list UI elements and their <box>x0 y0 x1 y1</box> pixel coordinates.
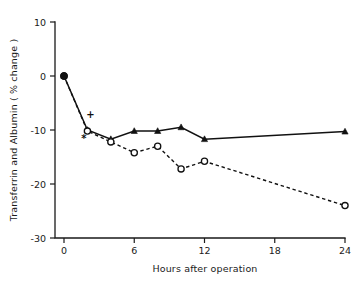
annotation-marker: + <box>86 109 94 120</box>
x-tick-label: 18 <box>269 245 281 256</box>
y-tick-label: 10 <box>34 17 46 28</box>
chart-figure: 100-10-20-30 06121824 +* Hours after ope… <box>0 0 359 282</box>
line-chart: 100-10-20-30 06121824 +* Hours after ope… <box>0 0 359 282</box>
axis-spines <box>55 22 345 238</box>
x-tick-label: 24 <box>339 245 351 256</box>
series-line-transferrin <box>64 76 345 139</box>
y-tick-label: -10 <box>30 125 46 136</box>
marker-circle <box>155 143 161 149</box>
y-axis-ticks: 100-10-20-30 <box>30 17 55 244</box>
y-tick-label: -20 <box>30 179 46 190</box>
axes <box>55 22 345 238</box>
marker-triangle <box>178 124 184 130</box>
marker-circle <box>342 203 348 209</box>
marker-circle <box>131 150 137 156</box>
significance-annotations: +* <box>81 109 94 144</box>
marker-circle <box>108 139 114 145</box>
x-axis-ticks: 06121824 <box>61 238 351 256</box>
y-tick-label: 0 <box>40 71 46 82</box>
marker-circle <box>201 158 207 164</box>
annotation-marker: * <box>81 133 87 144</box>
x-axis-label: Hours after operation <box>152 263 257 274</box>
x-tick-label: 6 <box>131 245 137 256</box>
marker-circle <box>178 166 184 172</box>
x-tick-label: 0 <box>61 245 67 256</box>
y-axis-label: Transferrin and Albumin ( % change ) <box>8 39 19 223</box>
y-tick-label: -30 <box>30 233 46 244</box>
marker-origin-dot <box>61 73 68 80</box>
x-tick-label: 12 <box>198 245 210 256</box>
data-markers <box>61 73 349 209</box>
